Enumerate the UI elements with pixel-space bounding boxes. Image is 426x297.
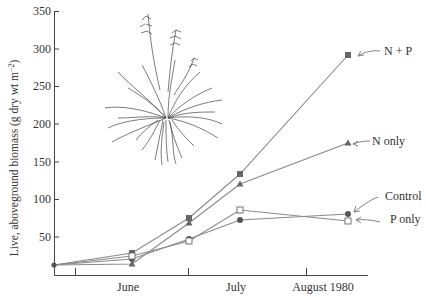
svg-text:150: 150 (33, 155, 51, 169)
p-only-marker (186, 238, 192, 244)
svg-text:50: 50 (39, 230, 51, 244)
label-p-only: P only (390, 212, 421, 226)
svg-text:200: 200 (33, 117, 51, 131)
arrow-control (354, 197, 378, 212)
arrow-n-only (353, 141, 370, 146)
x-tick-labels: June July August 1980 (117, 280, 354, 294)
svg-text:250: 250 (33, 79, 51, 93)
svg-text:300: 300 (33, 42, 51, 56)
series-control-line (54, 214, 348, 265)
axes (55, 11, 369, 276)
svg-text:July: July (226, 280, 246, 294)
control-marker (237, 217, 243, 223)
p-only-marker (129, 253, 135, 259)
n-only-marker (345, 140, 352, 146)
biomass-line-chart: 350 300 250 200 150 100 50 June July Aug… (0, 0, 426, 297)
label-n-only: N only (372, 134, 405, 148)
arrow-n-plus-p (358, 51, 380, 56)
label-control: Control (385, 189, 422, 203)
svg-text:June: June (117, 280, 139, 294)
arrow-p-only (356, 217, 380, 223)
series-p-only-line (54, 210, 348, 265)
p-only-marker (345, 218, 351, 224)
y-axis-title: Live, aboveground biomass (g dry wt m−2) (7, 60, 21, 257)
series-lines (54, 55, 348, 265)
label-n-plus-p: N + P (384, 44, 412, 58)
svg-text:350: 350 (33, 4, 51, 18)
svg-text:100: 100 (33, 192, 51, 206)
series-markers (51, 52, 351, 268)
series-n-only-line (54, 143, 348, 265)
n-plus-p-marker (237, 171, 243, 177)
start-marker (51, 262, 56, 267)
n-plus-p-marker (345, 52, 351, 58)
y-tick-labels: 350 300 250 200 150 100 50 (33, 4, 51, 244)
control-marker (345, 211, 351, 217)
grass-plant-illustration (105, 14, 222, 165)
svg-text:August 1980: August 1980 (292, 280, 354, 294)
series-labels: N + P N only Control P only (372, 44, 422, 226)
p-only-marker (237, 207, 243, 213)
